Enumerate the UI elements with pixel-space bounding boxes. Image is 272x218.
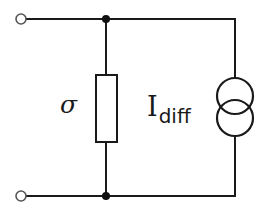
resistor-icon <box>96 75 117 142</box>
circuit-diagram: σ Idiff <box>0 0 272 218</box>
current-source-label-main: I <box>147 91 158 122</box>
terminal-bottom-icon <box>16 191 26 201</box>
circuit-schematic <box>0 0 272 218</box>
terminal-top-icon <box>16 14 26 24</box>
current-source-icon <box>217 78 253 136</box>
junction-dot-top <box>102 15 110 23</box>
resistor-label: σ <box>60 92 77 117</box>
current-source-label-subscript: diff <box>159 104 191 128</box>
junction-dot-bottom <box>102 192 110 200</box>
current-source-label: Idiff <box>147 93 191 120</box>
